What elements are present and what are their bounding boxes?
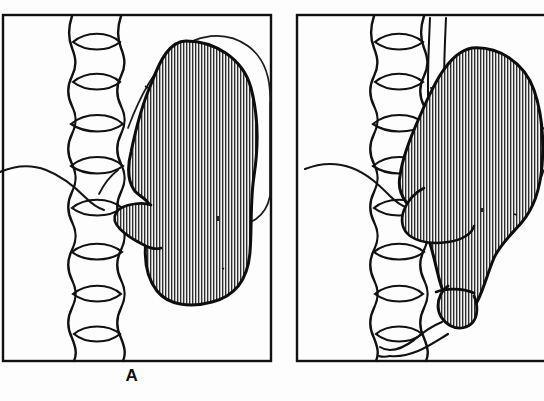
panel-a-illustration bbox=[0, 0, 276, 401]
kidney bbox=[110, 30, 276, 320]
panel-label-a: A bbox=[112, 366, 152, 386]
intervertebral-discs bbox=[71, 34, 123, 342]
figure-root: A bbox=[0, 0, 544, 401]
spine-left-edge bbox=[370, 16, 378, 361]
diaphragm-line bbox=[305, 164, 408, 208]
spine-left-edge bbox=[68, 16, 76, 361]
panel-b: B bbox=[276, 0, 544, 401]
panel-b-illustration bbox=[276, 0, 544, 401]
spine-right-edge bbox=[117, 16, 125, 361]
panel-a: A bbox=[0, 0, 276, 401]
